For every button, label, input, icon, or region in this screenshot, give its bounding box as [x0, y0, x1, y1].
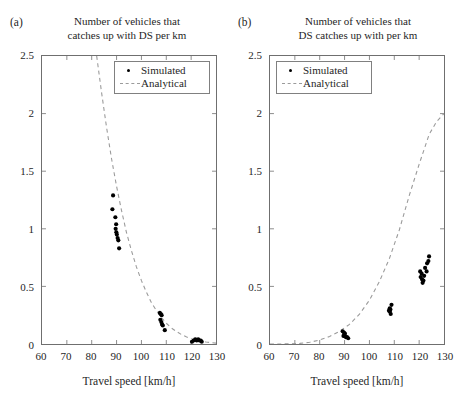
- panel-b-legend-item-analytical: Analytical: [281, 77, 366, 90]
- panel-a-plot-area: Simulated Analytical: [41, 55, 217, 345]
- panel-a-ytick-2: 2: [2, 107, 34, 119]
- panel-a-title-line1: Number of vehicles that: [42, 14, 212, 28]
- panel-b: (b) Number of vehicles that DS catches u…: [228, 0, 457, 403]
- dashed-line-icon: [119, 77, 141, 90]
- panel-b-plot-svg: [270, 56, 444, 344]
- panel-a-title: Number of vehicles that catches up with …: [42, 14, 212, 42]
- panel-a-ytick-0.5: 0.5: [2, 281, 34, 293]
- panel-a: (a) Number of vehicles that catches up w…: [0, 0, 229, 403]
- panel-b-tickmarks: [270, 56, 444, 344]
- panel-a-ytick-1: 1: [2, 223, 34, 235]
- panel-b-ytick-0.5: 0.5: [230, 281, 262, 293]
- panel-b-xaxis-title: Travel speed [km/h]: [269, 375, 445, 387]
- panel-b-simulated-points: [341, 254, 432, 340]
- panel-a-xaxis-title: Travel speed [km/h]: [41, 375, 217, 387]
- panel-b-legend: Simulated Analytical: [276, 61, 372, 94]
- panel-b-title: Number of vehicles that DS catches up wi…: [272, 14, 444, 42]
- panel-b-analytical-curve: [270, 114, 444, 344]
- panel-a-legend-label-simulated: Simulated: [141, 64, 186, 77]
- panel-a-ytick-1.5: 1.5: [2, 165, 34, 177]
- panel-b-xtick-130: 130: [430, 350, 459, 362]
- panel-a-plot-svg: [42, 56, 216, 344]
- panel-a-analytical-curve: [97, 56, 216, 343]
- panel-b-ytick-1.5: 1.5: [230, 165, 262, 177]
- panel-b-title-line2: DS catches up with per km: [272, 28, 444, 42]
- panel-b-legend-label-simulated: Simulated: [303, 64, 348, 77]
- panel-b-plot-area: Simulated Analytical: [269, 55, 445, 345]
- panel-b-title-line1: Number of vehicles that: [272, 14, 444, 28]
- panel-b-legend-label-analytical: Analytical: [303, 77, 349, 90]
- panel-a-legend-item-analytical: Analytical: [119, 77, 204, 90]
- dot-marker-icon: [119, 64, 141, 77]
- dot-marker-icon: [281, 64, 303, 77]
- panel-a-tag: (a): [10, 16, 23, 28]
- panel-a-ytick-2.5: 2.5: [2, 49, 34, 61]
- panel-b-ytick-1: 1: [230, 223, 262, 235]
- panel-a-legend: Simulated Analytical: [114, 61, 210, 94]
- dashed-line-icon: [281, 77, 303, 90]
- panel-b-legend-item-simulated: Simulated: [281, 64, 366, 77]
- panel-a-title-line2: catches up with DS per km: [42, 28, 212, 42]
- panel-b-ytick-2: 2: [230, 107, 262, 119]
- panel-a-legend-label-analytical: Analytical: [141, 77, 187, 90]
- panel-a-simulated-points: [110, 193, 204, 343]
- panel-a-tickmarks: [42, 56, 216, 344]
- panel-a-legend-item-simulated: Simulated: [119, 64, 204, 77]
- panel-b-tag: (b): [238, 16, 251, 28]
- figure-container: (a) Number of vehicles that catches up w…: [0, 0, 459, 403]
- panel-b-ytick-2.5: 2.5: [230, 49, 262, 61]
